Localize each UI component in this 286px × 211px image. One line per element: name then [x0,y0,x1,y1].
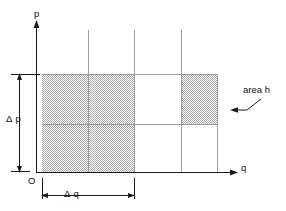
shaded-cell-c1r0 [88,74,134,124]
delta-q-arrow-right [128,193,135,198]
p-axis-arrowhead [34,20,40,28]
phase-space-diagram: p q O Δ p Δ q area h [0,0,286,211]
shaded-cell-c1r1 [88,124,134,172]
shaded-cells [42,74,217,172]
delta-q-measure [41,178,135,199]
delta-q-label: Δ q [64,189,79,199]
q-axis-arrowhead [230,170,238,176]
delta-p-label: Δ p [6,114,21,124]
area-h-leader-path [237,99,261,110]
area-h-label: area h [243,85,270,95]
area-h-leader [230,99,261,113]
shaded-cell-top-right [181,74,217,124]
shaded-cell-c0r1 [42,124,88,172]
q-axis-label: q [241,163,246,173]
shaded-cell-c0r0 [42,74,88,124]
origin-label: O [28,176,35,186]
p-axis-label: p [34,9,39,19]
diagram-canvas [0,0,286,211]
area-h-arrowhead [230,107,238,113]
